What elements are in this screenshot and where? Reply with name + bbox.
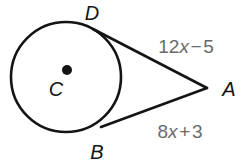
geometry-canvas (0, 0, 249, 166)
expr-variable: x (168, 121, 178, 142)
expr-operator: − (190, 36, 201, 57)
expr-coefficient: 8 (158, 121, 169, 142)
point-label-d: D (85, 3, 99, 23)
point-label-b: B (90, 142, 103, 162)
center-point-dot (62, 65, 72, 75)
expr-variable: x (179, 36, 189, 57)
tangent-da-length-label: 12x − 5 (158, 37, 214, 56)
expr-coefficient: 12 (158, 36, 179, 57)
circle-c (11, 22, 121, 132)
point-label-a: A (222, 79, 235, 99)
geometry-figure: D A B C 12x − 5 8x + 3 (0, 0, 249, 166)
expr-constant: 3 (192, 121, 203, 142)
tangent-ba-length-label: 8x + 3 (158, 122, 203, 141)
center-label-c: C (49, 79, 63, 99)
expr-operator: + (179, 121, 190, 142)
expr-constant: 5 (203, 36, 214, 57)
